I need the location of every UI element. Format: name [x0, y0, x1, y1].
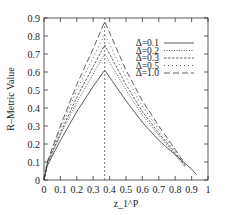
legend: Δ=0.1Δ=0.2Δ=0.3Δ=0.5Δ=1.0 [136, 38, 194, 78]
y-tick-label: 0.3 [28, 121, 41, 132]
y-tick-label: 0.2 [28, 139, 41, 150]
y-tick-label: 0.5 [28, 85, 41, 96]
y-tick-label: 0 [35, 175, 40, 186]
x-axis-ticks: 00.10.20.30.40.50.60.70.80.91 [42, 18, 211, 195]
series-line [44, 34, 185, 180]
x-tick-label: 0.4 [103, 184, 116, 195]
line-chart: 00.10.20.30.40.50.60.70.80.9 00.10.20.30… [0, 0, 225, 215]
y-tick-label: 0.8 [28, 31, 41, 42]
series-line [44, 70, 197, 180]
y-tick-label: 0.1 [28, 157, 41, 168]
x-tick-label: 0.8 [169, 184, 182, 195]
y-tick-label: 0.7 [28, 49, 41, 60]
y-axis-label: R–Metric Value [5, 67, 16, 131]
legend-label: Δ=1.0 [136, 68, 160, 78]
x-tick-label: 0.2 [71, 184, 84, 195]
y-tick-label: 0.6 [28, 67, 41, 78]
x-tick-label: 0.9 [185, 184, 198, 195]
x-tick-label: 0.7 [153, 184, 166, 195]
series-line [44, 54, 185, 180]
y-tick-label: 0.4 [28, 103, 41, 114]
x-tick-label: 0.6 [136, 184, 149, 195]
series-line [44, 22, 185, 180]
x-tick-label: 0 [42, 184, 47, 195]
x-tick-label: 0.1 [54, 184, 67, 195]
x-tick-label: 1 [206, 184, 211, 195]
series-line [44, 45, 185, 180]
data-series [44, 22, 197, 180]
plot-frame [44, 18, 208, 180]
y-tick-label: 0.9 [28, 13, 41, 24]
x-tick-label: 0.5 [120, 184, 133, 195]
x-axis-label: z_1^P [114, 198, 139, 209]
x-tick-label: 0.3 [87, 184, 100, 195]
